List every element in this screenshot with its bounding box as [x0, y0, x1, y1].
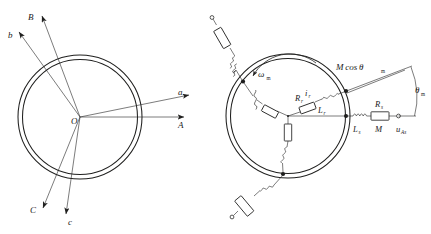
- label-layer: O a A b B c C ω m R r L r i r L s R s: [0, 0, 431, 234]
- figure-canvas: O a A b B c C ω m R r L r i r L s R s: [0, 0, 431, 234]
- label-axis-a: a: [178, 87, 183, 97]
- label-axis-B: B: [28, 12, 34, 22]
- Rr-subscript: r: [301, 98, 304, 104]
- label-Lr: L r: [317, 105, 327, 116]
- omega-symbol: ω: [258, 69, 264, 79]
- Rs-symbol: R: [374, 99, 381, 109]
- ir-symbol: i: [305, 88, 308, 98]
- Ls-subscript: s: [358, 129, 360, 135]
- omega-subscript: m: [267, 75, 271, 81]
- label-omega-m: ω m: [258, 69, 271, 81]
- label-axis-C: C: [30, 205, 37, 215]
- mcos-subscript: m: [381, 68, 385, 74]
- uAs-symbol: u: [396, 124, 400, 134]
- Lr-subscript: r: [324, 110, 327, 116]
- label-uAs: u As: [396, 124, 406, 135]
- mcos-symbol: M cos θ: [335, 62, 364, 72]
- theta-subscript: m: [421, 91, 425, 97]
- label-Mcostheta: M cos θ m: [335, 62, 385, 74]
- label-axis-c: c: [68, 217, 72, 227]
- label-axis-b: b: [8, 30, 13, 40]
- Rr-symbol: R: [294, 93, 301, 103]
- label-axis-A: A: [177, 120, 184, 130]
- uAs-subscript: As: [400, 129, 406, 135]
- Ls-symbol: L: [352, 124, 358, 134]
- theta-symbol: θ: [415, 85, 420, 95]
- label-Rs: R s: [374, 99, 383, 110]
- label-origin-O: O: [71, 116, 78, 126]
- label-Rr: R r: [294, 93, 304, 104]
- label-theta-m: θ m: [415, 85, 425, 97]
- label-M: M: [374, 124, 383, 134]
- Lr-symbol: L: [317, 105, 323, 115]
- label-ir: i r: [305, 88, 312, 99]
- Rs-subscript: s: [381, 104, 383, 110]
- ir-subscript: r: [309, 93, 312, 99]
- label-Ls: L s: [352, 124, 360, 135]
